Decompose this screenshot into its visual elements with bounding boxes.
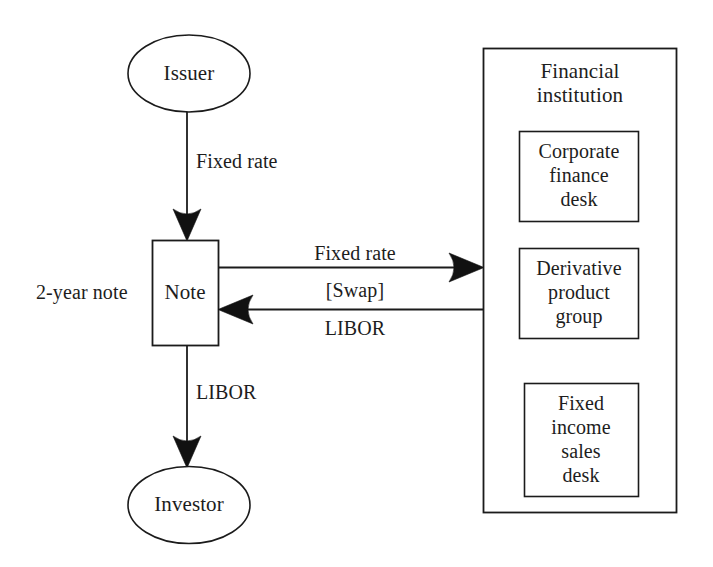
diagram-canvas: Issuer Fixed rate 2-year note Note Fixed… — [0, 0, 713, 567]
financial-institution-label-line2: institution — [537, 84, 623, 108]
edge-label-investor-libor: LIBOR — [196, 381, 257, 404]
note-label: Note — [164, 281, 205, 305]
issuer-label: Issuer — [164, 62, 215, 86]
fixed-income-sales-desk-line4: desk — [562, 464, 599, 487]
note-to-investor-arrowhead — [173, 436, 201, 468]
investor-label: Investor — [154, 493, 224, 517]
annotation-swap: [Swap] — [326, 279, 384, 302]
fixed-income-sales-desk-line3: sales — [561, 440, 600, 463]
edge-label-swap-libor: LIBOR — [325, 317, 386, 340]
corporate-finance-desk-line2: finance — [549, 164, 609, 187]
corporate-finance-desk-line3: desk — [560, 188, 597, 211]
derivative-product-group-line1: Derivative — [536, 257, 621, 280]
fixed-income-sales-desk-line1: Fixed — [558, 392, 604, 415]
issuer-to-note-arrowhead — [173, 209, 201, 241]
fixed-income-sales-desk-line2: income — [551, 416, 610, 439]
edge-label-issuer-fixed-rate: Fixed rate — [196, 150, 278, 173]
note-to-fi-fixed-arrowhead — [449, 253, 484, 282]
corporate-finance-desk-line1: Corporate — [539, 140, 620, 163]
derivative-product-group-line3: group — [555, 305, 602, 328]
financial-institution-label-line1: Financial — [540, 60, 619, 84]
edge-label-swap-fixed-rate: Fixed rate — [314, 242, 396, 265]
fi-to-note-libor-arrowhead — [218, 295, 253, 324]
annotation-2-year-note: 2-year note — [36, 281, 128, 304]
derivative-product-group-line2: product — [548, 281, 610, 304]
